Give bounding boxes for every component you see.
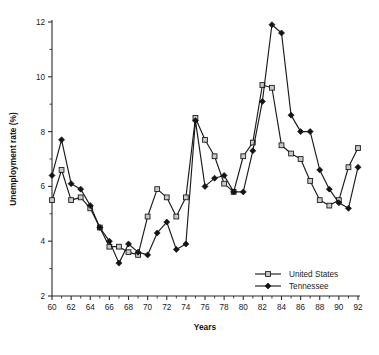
x-tick-label: 64 <box>86 303 96 312</box>
legend-marker-open-square <box>266 272 271 277</box>
data-point <box>298 157 303 162</box>
y-axis-ticks: 24681012 <box>36 18 52 301</box>
data-point <box>78 186 84 192</box>
data-point <box>241 154 246 159</box>
data-point <box>173 246 179 252</box>
data-point <box>355 164 361 170</box>
data-point <box>78 195 83 200</box>
data-point <box>145 252 151 258</box>
data-point <box>288 112 294 118</box>
legend-label: United States <box>289 270 338 279</box>
data-point <box>183 195 188 200</box>
series-tennessee <box>49 22 361 266</box>
x-tick-label: 82 <box>258 303 268 312</box>
data-point <box>203 137 208 142</box>
x-tick-label: 74 <box>181 303 191 312</box>
data-point <box>145 214 150 219</box>
y-tick-label: 10 <box>36 73 46 82</box>
data-point <box>69 198 74 203</box>
y-tick-label: 12 <box>36 18 46 27</box>
x-tick-label: 62 <box>67 303 77 312</box>
x-tick-label: 76 <box>200 303 210 312</box>
data-point <box>298 129 304 135</box>
data-point <box>346 165 351 170</box>
legend-marker-filled-diamond <box>265 283 271 289</box>
x-tick-label: 92 <box>353 303 363 312</box>
data-point <box>345 205 351 211</box>
x-tick-label: 86 <box>296 303 306 312</box>
data-point <box>279 143 284 148</box>
x-axis-ticks: 6062646668707274767880828486889092 <box>47 296 363 312</box>
x-tick-label: 88 <box>315 303 325 312</box>
data-point <box>222 181 227 186</box>
data-point <box>183 241 189 247</box>
data-point <box>250 148 256 154</box>
data-point <box>212 154 217 159</box>
series-united-states <box>50 83 361 258</box>
x-tick-label: 78 <box>220 303 230 312</box>
chart-axes <box>52 20 360 296</box>
data-point <box>49 172 55 178</box>
x-tick-label: 90 <box>334 303 344 312</box>
y-axis-title: Unemployment rate (%) <box>8 112 18 206</box>
y-tick-label: 6 <box>40 182 45 191</box>
y-tick-label: 2 <box>40 292 45 301</box>
data-point <box>356 146 361 151</box>
y-tick-label: 8 <box>40 128 45 137</box>
data-point <box>68 181 74 187</box>
data-point <box>50 198 55 203</box>
legend-label: Tennessee <box>289 282 329 291</box>
data-point <box>59 168 64 173</box>
data-point <box>317 167 323 173</box>
data-point <box>174 214 179 219</box>
x-tick-label: 60 <box>47 303 57 312</box>
data-point <box>317 198 322 203</box>
data-point <box>270 85 275 90</box>
x-tick-label: 84 <box>277 303 287 312</box>
x-tick-label: 66 <box>105 303 115 312</box>
x-tick-label: 70 <box>143 303 153 312</box>
data-point <box>308 179 313 184</box>
data-point <box>164 195 169 200</box>
x-axis-title: Years <box>194 322 217 332</box>
x-tick-label: 68 <box>124 303 134 312</box>
y-tick-label: 4 <box>40 237 45 246</box>
data-point <box>126 250 131 255</box>
data-point <box>289 151 294 156</box>
data-point <box>307 129 313 135</box>
data-point <box>59 137 65 143</box>
x-tick-label: 72 <box>162 303 172 312</box>
data-point <box>155 187 160 192</box>
data-point <box>327 203 332 208</box>
data-point <box>240 189 246 195</box>
x-tick-label: 80 <box>239 303 249 312</box>
chart-canvas: 2468101260626466687072747678808284868890… <box>0 0 379 355</box>
chart-legend: United StatesTennessee <box>255 270 338 291</box>
data-point <box>116 260 122 266</box>
unemployment-rate-chart: 2468101260626466687072747678808284868890… <box>0 0 379 355</box>
data-point <box>117 244 122 249</box>
